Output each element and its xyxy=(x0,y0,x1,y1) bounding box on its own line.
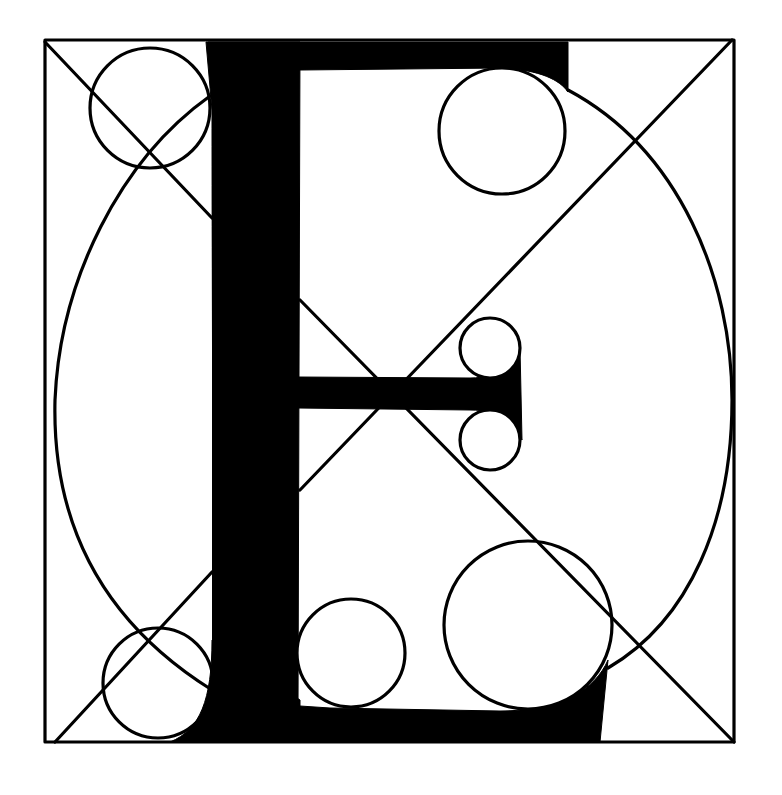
circle-middle-serif-lower xyxy=(460,410,520,470)
circle-bottom-left-corner xyxy=(103,628,213,738)
circle-middle-serif-upper xyxy=(460,318,520,378)
diagonal-tl-br xyxy=(45,42,212,218)
circle-bottom-inner xyxy=(297,599,405,707)
diagonal-tr-bl-low xyxy=(55,572,212,742)
letter-e-construction xyxy=(0,0,782,795)
circle-bottom-serif xyxy=(444,541,612,709)
stem-mask xyxy=(212,60,298,700)
circle-top-serif xyxy=(439,68,565,194)
ellipse-left-arc xyxy=(55,96,212,690)
